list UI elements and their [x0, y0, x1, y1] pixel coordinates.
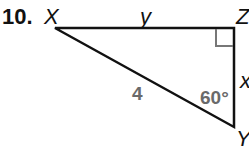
right-angle-marker	[216, 29, 233, 46]
triangle-figure	[0, 0, 249, 150]
vertex-y-label: Y	[236, 128, 249, 150]
vertex-z-label: Z	[236, 6, 249, 28]
angle-y-label: 60°	[200, 88, 229, 107]
problem-number: 10.	[2, 6, 33, 28]
triangle-xyz	[55, 28, 234, 127]
side-y-label: y	[140, 6, 151, 28]
vertex-x-label: X	[44, 6, 59, 28]
hypotenuse-length-label: 4	[132, 84, 143, 103]
side-x-label: x	[240, 70, 249, 92]
